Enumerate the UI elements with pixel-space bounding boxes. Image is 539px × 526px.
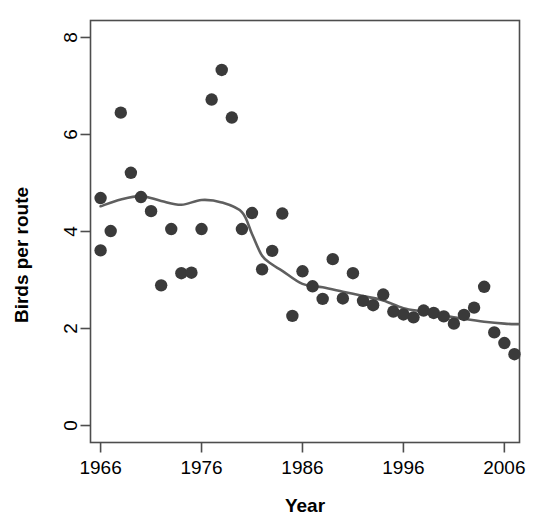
y-tick-label: 2	[60, 323, 81, 334]
data-point	[377, 288, 389, 300]
data-point	[316, 293, 328, 305]
data-point	[407, 311, 419, 323]
data-point	[125, 167, 137, 179]
data-point	[256, 263, 268, 275]
data-point	[488, 326, 500, 338]
data-point	[195, 223, 207, 235]
chart-figure: 02468 19661976198619962006 Year Birds pe…	[0, 0, 539, 526]
x-axis-title: Year	[285, 495, 326, 516]
data-point	[448, 317, 460, 329]
data-point	[478, 281, 490, 293]
y-tick-label: 0	[60, 420, 81, 431]
data-point	[337, 292, 349, 304]
data-point	[104, 225, 116, 237]
y-tick-label: 6	[60, 129, 81, 140]
data-point	[205, 93, 217, 105]
x-tick-label: 1996	[382, 457, 424, 478]
data-point	[155, 279, 167, 291]
data-point	[246, 207, 258, 219]
data-point	[306, 280, 318, 292]
data-point	[327, 253, 339, 265]
data-point	[226, 111, 238, 123]
data-point	[276, 207, 288, 219]
y-tick-label: 8	[60, 32, 81, 43]
x-tick-label: 1966	[79, 457, 121, 478]
data-point	[347, 267, 359, 279]
scatter-plot-svg: 02468 19661976198619962006 Year Birds pe…	[0, 0, 539, 526]
x-tick-label: 1976	[180, 457, 222, 478]
data-point	[236, 223, 248, 235]
data-point	[468, 301, 480, 313]
y-axis-title: Birds per route	[11, 187, 32, 323]
data-point	[216, 64, 228, 76]
data-point	[115, 106, 127, 118]
data-point	[165, 223, 177, 235]
data-point	[508, 348, 520, 360]
data-point	[498, 337, 510, 349]
data-point	[286, 310, 298, 322]
y-tick-label: 4	[60, 226, 81, 237]
data-point	[458, 309, 470, 321]
data-point	[296, 265, 308, 277]
data-point	[145, 205, 157, 217]
data-point	[367, 299, 379, 311]
data-point	[94, 244, 106, 256]
data-point	[266, 245, 278, 257]
data-point	[94, 192, 106, 204]
x-tick-label: 2006	[483, 457, 525, 478]
data-point	[135, 191, 147, 203]
x-tick-label: 1986	[281, 457, 323, 478]
data-point	[185, 267, 197, 279]
data-point	[438, 310, 450, 322]
